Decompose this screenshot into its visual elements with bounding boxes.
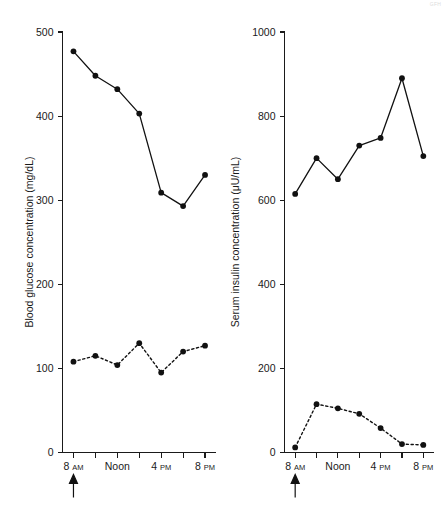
series-line-right-untreated (295, 78, 423, 194)
datapoint-left-treated-2 (114, 362, 120, 368)
y-ticklabels-left: 0100200300400500 (36, 26, 54, 459)
datapoint-left-untreated-3 (136, 111, 142, 117)
y-ticklabel-right-4: 800 (258, 110, 276, 122)
datapoint-right-treated-3 (356, 411, 362, 417)
annotation-layer-right (291, 475, 299, 498)
meal-arrow-head-right (291, 475, 299, 484)
datapoint-right-treated-5 (399, 441, 405, 447)
datapoint-left-untreated-5 (180, 203, 186, 209)
annotation-layer-left (69, 475, 77, 498)
x-ticklabels-left: 8 AMNoon4 PM8 PM (63, 460, 215, 472)
datapoint-right-untreated-0 (292, 191, 298, 197)
y-ticklabel-left-0: 0 (48, 446, 54, 458)
x-ticks-left (73, 453, 205, 458)
x-ticklabels-right: 8 AMNoon4 PM8 PM (285, 460, 433, 472)
x-ticklabel-left-2: Noon (105, 460, 130, 472)
datapoint-left-treated-3 (136, 340, 142, 346)
datapoint-right-untreated-6 (420, 153, 426, 159)
y-ticklabel-left-3: 300 (36, 194, 54, 206)
x-ticklabel-left-0: 8 AM (63, 460, 83, 472)
y-ticklabel-right-3: 600 (258, 194, 276, 206)
datapoint-right-treated-2 (335, 405, 341, 411)
y-ticklabel-left-4: 400 (36, 110, 54, 122)
y-ticklabel-right-2: 400 (258, 278, 276, 290)
meal-arrow-head-left (69, 475, 77, 484)
x-ticklabel-right-4: 4 PM (371, 460, 391, 472)
y-ticklabel-right-5: 1000 (252, 26, 276, 38)
datapoint-right-treated-0 (292, 445, 298, 451)
datapoint-right-untreated-2 (335, 176, 341, 182)
figure-container: GFH 0100200300400500 8 AMNoon4 PM8 PM Bl… (0, 0, 447, 505)
datapoint-left-untreated-1 (92, 73, 98, 79)
datapoint-left-treated-0 (71, 359, 77, 365)
chart-panel-blood-glucose: 0100200300400500 8 AMNoon4 PM8 PM Blood … (0, 0, 232, 505)
datapoint-left-treated-4 (158, 370, 164, 376)
x-ticklabel-right-0: 8 AM (285, 460, 305, 472)
y-ticklabels-right: 02004006008001000 (252, 26, 276, 459)
datapoint-right-treated-1 (314, 401, 320, 407)
y-ticklabel-left-5: 500 (36, 26, 54, 38)
datapoint-left-untreated-4 (158, 190, 164, 196)
datapoint-left-treated-5 (180, 349, 186, 355)
y-ticklabel-left-1: 100 (36, 362, 54, 374)
y-ticklabel-right-1: 200 (258, 362, 276, 374)
series-layer-left (71, 48, 208, 375)
y-ticklabel-right-0: 0 (270, 446, 276, 458)
x-ticklabel-right-2: Noon (325, 460, 350, 472)
datapoint-right-untreated-5 (399, 75, 405, 81)
datapoint-left-treated-1 (92, 353, 98, 359)
datapoint-right-untreated-4 (378, 135, 384, 141)
datapoint-right-treated-4 (378, 425, 384, 431)
datapoint-left-untreated-0 (71, 48, 77, 54)
datapoint-left-untreated-2 (114, 86, 120, 92)
series-line-left-treated (73, 343, 205, 372)
datapoint-left-untreated-6 (202, 172, 208, 178)
series-layer-right (292, 75, 426, 450)
datapoint-right-treated-6 (420, 442, 426, 448)
x-ticks-right (295, 453, 423, 458)
x-ticklabel-right-6: 8 PM (413, 460, 433, 472)
blood-glucose-svg: 0100200300400500 8 AMNoon4 PM8 PM Blood … (0, 0, 232, 505)
serum-insulin-svg: 02004006008001000 8 AMNoon4 PM8 PM Serum… (222, 0, 447, 505)
y-axis-title-right: Serum insulin concentration (μU/mL) (229, 157, 241, 328)
x-ticklabel-left-4: 4 PM (151, 460, 171, 472)
datapoint-right-untreated-1 (314, 155, 320, 161)
y-ticks-left (58, 32, 63, 453)
y-ticks-right (280, 32, 285, 453)
y-axis-title-left: Blood glucose concentration (mg/dL) (23, 156, 35, 327)
y-ticklabel-left-2: 200 (36, 278, 54, 290)
x-ticklabel-left-6: 8 PM (195, 460, 215, 472)
datapoint-left-treated-6 (202, 343, 208, 349)
chart-panel-serum-insulin: 02004006008001000 8 AMNoon4 PM8 PM Serum… (222, 0, 447, 505)
datapoint-right-untreated-3 (356, 143, 362, 149)
series-line-right-treated (295, 404, 423, 447)
